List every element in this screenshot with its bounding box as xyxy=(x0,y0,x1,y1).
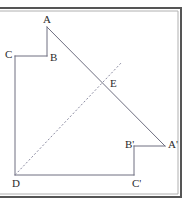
figure-frame xyxy=(0,8,181,197)
vertex-label-E: E xyxy=(110,78,117,89)
figure-segments xyxy=(15,27,165,175)
frame-inner-border xyxy=(0,11,178,194)
vertex-label-A-prime: A' xyxy=(168,139,178,150)
vertex-label-B-prime: B' xyxy=(125,139,134,150)
vertex-label-C: C xyxy=(5,49,12,60)
vertex-label-B: B xyxy=(50,52,57,63)
segment-A-Aprime xyxy=(47,27,165,146)
dashed-line-D-through-E xyxy=(15,62,122,175)
figure-dashed-construction-line xyxy=(15,62,122,175)
vertex-label-A: A xyxy=(43,14,51,25)
vertex-label-D: D xyxy=(12,178,20,189)
figure-canvas xyxy=(0,0,189,206)
geometry-figure: A B C D E A' B' C' xyxy=(0,0,189,206)
vertex-label-C-prime: C' xyxy=(132,178,141,189)
frame-outer-border xyxy=(0,8,181,197)
